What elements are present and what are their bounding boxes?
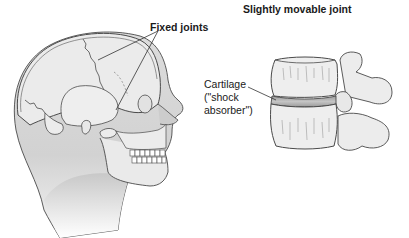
diagram-artwork — [0, 0, 409, 238]
lower-vertebral-body — [271, 104, 338, 149]
cartilage-callout-line-3: absorber") — [204, 104, 253, 117]
eye-orbit — [138, 95, 152, 113]
vertebrae-illustration — [271, 52, 392, 150]
cartilage-callout-line-2: ("shock — [204, 91, 253, 104]
facet-joint — [335, 92, 352, 112]
fixed-joints-title: Fixed joints — [150, 21, 208, 33]
cartilage-callout: Cartilage ("shock absorber") — [204, 78, 253, 117]
slightly-movable-joint-title: Slightly movable joint — [243, 3, 352, 15]
cartilage-callout-line-1: Cartilage — [204, 78, 253, 91]
lower-spinous-process — [338, 113, 389, 150]
head-illustration — [14, 32, 183, 238]
